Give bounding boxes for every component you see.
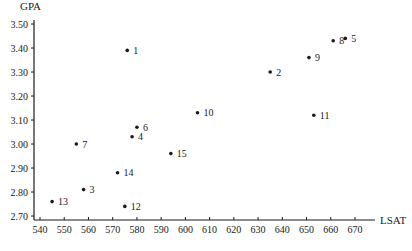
point-marker [331,39,335,43]
point-label: 10 [204,107,214,118]
point-marker [268,70,272,74]
point-marker [82,188,86,192]
point-label: 12 [131,201,141,212]
x-tick-label: 620 [226,224,241,235]
x-tick-label: 560 [81,224,96,235]
data-points: 123456789101112131415 [50,33,356,212]
data-point: 13 [50,196,68,207]
point-marker [125,49,129,53]
point-label: 5 [351,33,356,44]
x-axis-title: LSAT [380,214,407,226]
data-point: 2 [268,67,281,78]
y-tick-label: 3.50 [11,19,29,30]
x-tick-label: 590 [154,224,169,235]
data-point: 15 [169,148,187,159]
x-tick-label: 670 [348,224,363,235]
y-tick-label: 2.70 [11,211,29,222]
point-label: 2 [276,67,281,78]
y-tick-label: 2.80 [11,187,29,198]
point-label: 4 [138,131,143,142]
x-tick-label: 600 [178,224,193,235]
scatter-chart: 2.702.802.903.003.103.203.303.403.505405… [0,0,412,251]
point-label: 13 [58,196,68,207]
point-marker [130,135,134,139]
x-tick-label: 610 [202,224,217,235]
y-tick-label: 3.40 [11,43,29,54]
point-marker [123,205,127,209]
point-label: 9 [315,52,320,63]
y-tick-label: 3.10 [11,115,29,126]
point-marker [50,200,54,204]
x-tick-label: 570 [105,224,120,235]
x-tick-label: 550 [57,224,72,235]
point-marker [169,152,173,156]
x-tick-label: 630 [251,224,266,235]
point-marker [307,56,311,60]
point-label: 7 [82,139,87,150]
point-label: 1 [133,45,138,56]
y-axis-title: GPA [20,0,41,12]
point-label: 11 [320,110,330,121]
x-tick-label: 640 [275,224,290,235]
data-point: 8 [331,35,344,46]
data-point: 10 [196,107,214,118]
x-tick-label: 580 [129,224,144,235]
point-marker [196,111,200,115]
x-tick-label: 650 [299,224,314,235]
point-marker [75,142,79,146]
data-point: 5 [344,33,357,44]
data-point: 12 [123,201,141,212]
point-marker [312,113,316,117]
point-marker [135,125,139,129]
y-tick-label: 2.90 [11,163,29,174]
point-label: 8 [339,35,344,46]
y-tick-label: 3.20 [11,91,29,102]
data-point: 3 [82,184,95,195]
point-label: 15 [177,148,187,159]
x-tick-label: 540 [33,224,48,235]
data-point: 7 [75,139,88,150]
data-point: 4 [130,131,143,142]
y-tick-label: 3.30 [11,67,29,78]
point-label: 14 [124,167,134,178]
point-label: 3 [90,184,95,195]
x-tick-label: 660 [323,224,338,235]
data-point: 1 [125,45,138,56]
data-point: 9 [307,52,320,63]
data-point: 11 [312,110,329,121]
point-marker [116,171,120,175]
y-tick-label: 3.00 [11,139,29,150]
data-point: 14 [116,167,134,178]
point-label: 6 [143,122,148,133]
